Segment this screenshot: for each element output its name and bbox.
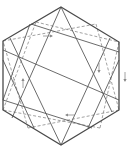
inner-solid-line (61, 38, 110, 145)
arrow-left-up-icon (21, 78, 24, 88)
twisted-hexagon-diagram (0, 0, 133, 155)
arrow-bottom-left-icon (65, 113, 75, 116)
inner-solid-line (31, 24, 119, 52)
inner-solid-line (3, 60, 34, 128)
diagram-canvas (0, 0, 133, 155)
arrow-outer-right-down-icon (123, 72, 126, 82)
direction-arrows (21, 34, 126, 116)
inner-dashed-line (3, 41, 28, 128)
inner-solid-line (12, 7, 61, 118)
inner-dashed-line (28, 110, 119, 128)
inner-solid-line (3, 50, 119, 100)
